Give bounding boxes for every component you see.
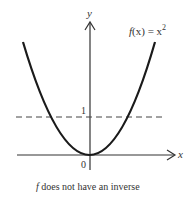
function-expression: (x) = x — [132, 25, 163, 38]
origin-label: 0 — [81, 159, 86, 170]
caption: f does not have an inverse — [36, 181, 140, 192]
function-exponent: 2 — [162, 23, 166, 32]
function-label: f(x) = x2 — [129, 23, 166, 38]
caption-text: does not have an inverse — [39, 181, 140, 192]
tick-label-one: 1 — [81, 105, 86, 116]
parabola-curve — [23, 42, 155, 155]
y-axis-label: y — [86, 7, 92, 19]
inverse-function-diagram: y x f(x) = x2 1 0 f does not have an inv… — [0, 0, 196, 197]
x-axis-label: x — [177, 148, 183, 160]
